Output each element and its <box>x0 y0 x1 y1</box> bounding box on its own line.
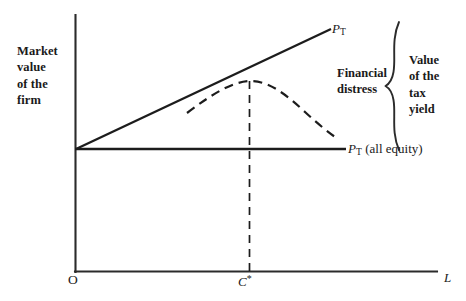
all-equity-label-base: P <box>348 141 356 156</box>
all-equity-label-suffix: (all equity) <box>362 141 423 156</box>
y-axis-label: Market value of the firm <box>17 43 79 108</box>
origin-label: O <box>68 272 78 288</box>
figure-container: Market value of the firm PT PT (all equi… <box>0 0 466 301</box>
all-equity-line-label: PT (all equity) <box>348 141 423 158</box>
firm-value-curve <box>187 81 338 139</box>
x-axis-label: L <box>444 270 451 285</box>
pt-line-label-base: P <box>332 21 340 36</box>
cstar-label-base: C <box>238 274 247 289</box>
pt-line-label-subscript: T <box>340 27 346 37</box>
y-axis-label-text: Market value of the firm <box>17 44 58 107</box>
tax-shield-line <box>76 29 331 149</box>
cstar-label-superscript: * <box>247 273 252 284</box>
cstar-label: C* <box>238 273 252 289</box>
financial-distress-label: Financial distress <box>337 65 391 98</box>
tax-yield-label: Value of the tax yield <box>409 52 463 117</box>
pt-line-label: PT <box>332 21 346 38</box>
